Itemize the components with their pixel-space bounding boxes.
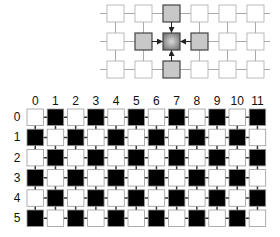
white-cell [47, 129, 64, 146]
white-cell [67, 109, 84, 126]
white-cell [128, 170, 145, 187]
white-cell [108, 190, 125, 207]
grid-cell [191, 61, 208, 78]
black-cell [67, 210, 84, 227]
grid-cell [219, 33, 236, 50]
black-cell [249, 109, 266, 126]
white-cell [189, 149, 206, 166]
black-cell [47, 149, 64, 166]
white-cell [209, 129, 226, 146]
white-cell [229, 109, 246, 126]
white-cell [229, 190, 246, 207]
row-label: 5 [14, 211, 21, 225]
black-cell [47, 190, 64, 207]
row-label: 2 [14, 151, 21, 165]
black-cell [88, 109, 105, 126]
white-cell [108, 149, 125, 166]
white-cell [209, 210, 226, 227]
white-cell [27, 109, 44, 126]
white-cell [189, 190, 206, 207]
column-label: 3 [93, 94, 100, 108]
black-cell [209, 109, 226, 126]
black-cell [168, 109, 185, 126]
white-cell [229, 149, 246, 166]
white-cell [27, 190, 44, 207]
white-cell [148, 149, 165, 166]
grid-cell [107, 33, 124, 50]
black-cell [108, 170, 125, 187]
white-cell [47, 170, 64, 187]
black-cell [67, 170, 84, 187]
neighbor-cell [163, 5, 180, 22]
black-cell [148, 210, 165, 227]
black-cell [229, 210, 246, 227]
column-label: 8 [194, 94, 201, 108]
white-cell [108, 109, 125, 126]
black-cell [88, 149, 105, 166]
black-cell [27, 170, 44, 187]
grid-cell [135, 5, 152, 22]
black-cell [168, 190, 185, 207]
black-cell [128, 190, 145, 207]
white-cell [128, 129, 145, 146]
neighbor-cell [135, 33, 152, 50]
black-cell [67, 129, 84, 146]
black-cell [229, 129, 246, 146]
black-cell [189, 210, 206, 227]
column-label: 2 [72, 94, 79, 108]
column-label: 4 [113, 94, 120, 108]
grid-cell [247, 61, 264, 78]
white-cell [148, 190, 165, 207]
white-cell [249, 170, 266, 187]
black-cell [168, 149, 185, 166]
white-cell [209, 170, 226, 187]
neighbor-cell [163, 61, 180, 78]
white-cell [67, 190, 84, 207]
row-label: 3 [14, 171, 21, 185]
black-cell [189, 129, 206, 146]
neighbor-cell [191, 33, 208, 50]
center-cell [163, 33, 180, 50]
white-cell [27, 149, 44, 166]
row-label: 1 [14, 130, 21, 144]
black-cell [108, 210, 125, 227]
grid-cell [219, 5, 236, 22]
column-label: 5 [133, 94, 140, 108]
column-label: 0 [32, 94, 39, 108]
checkerboard-grid: 01234567891011012345 [14, 94, 266, 227]
column-label: 11 [251, 94, 264, 108]
grid-cell [107, 61, 124, 78]
row-label: 4 [14, 191, 21, 205]
white-cell [148, 109, 165, 126]
white-cell [249, 129, 266, 146]
black-cell [249, 190, 266, 207]
black-cell [148, 170, 165, 187]
black-cell [249, 149, 266, 166]
white-cell [88, 129, 105, 146]
column-label: 7 [173, 94, 180, 108]
black-cell [27, 129, 44, 146]
grid-cell [135, 61, 152, 78]
white-cell [47, 210, 64, 227]
white-cell [168, 170, 185, 187]
white-cell [189, 109, 206, 126]
black-cell [209, 149, 226, 166]
white-cell [67, 149, 84, 166]
white-cell [168, 129, 185, 146]
black-cell [189, 170, 206, 187]
black-cell [209, 190, 226, 207]
white-cell [168, 210, 185, 227]
column-label: 1 [52, 94, 59, 108]
black-cell [148, 129, 165, 146]
black-cell [229, 170, 246, 187]
white-cell [88, 210, 105, 227]
black-cell [128, 109, 145, 126]
black-cell [88, 190, 105, 207]
white-cell [88, 170, 105, 187]
grid-cell [107, 5, 124, 22]
row-label: 0 [14, 110, 21, 124]
neighborhood-diagram [100, 5, 270, 78]
grid-cell [219, 61, 236, 78]
grid-cell [191, 5, 208, 22]
white-cell [128, 210, 145, 227]
